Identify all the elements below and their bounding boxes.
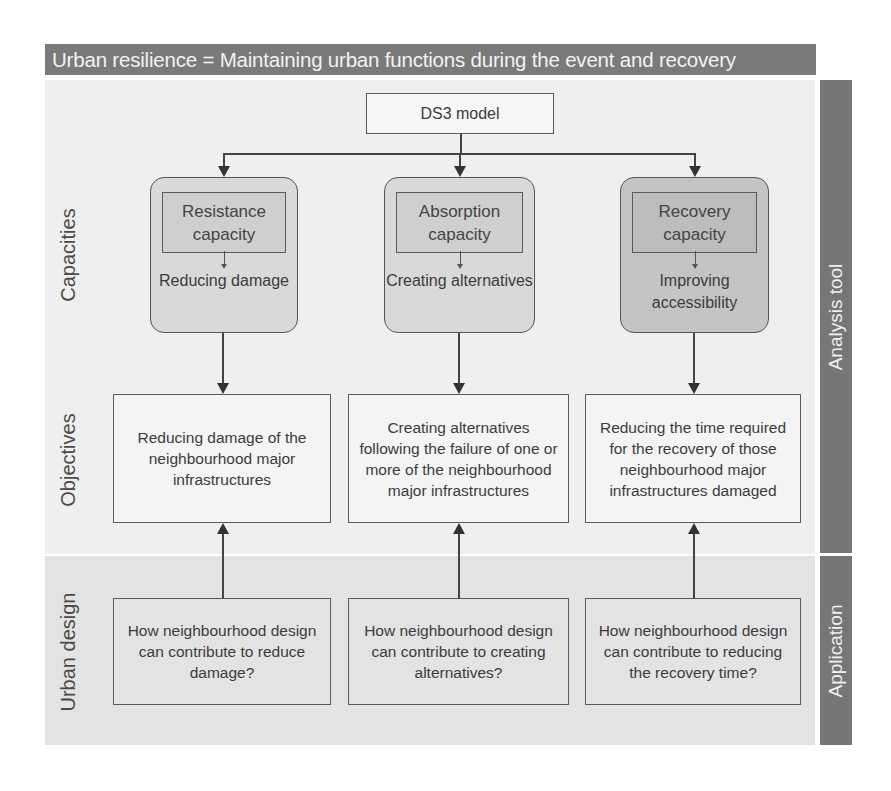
arrow-down-icon <box>689 166 701 177</box>
connector-line <box>458 533 460 598</box>
connector-line <box>458 333 460 383</box>
capacity-title: Recovery capacity <box>632 192 757 253</box>
urban-design-box-recovery: How neighbourhood design can contribute … <box>585 598 801 705</box>
arrow-down-icon <box>217 383 229 394</box>
arrow-up-icon <box>688 523 700 534</box>
capacity-title-text: Resistance capacity <box>163 200 285 246</box>
capacity-box-recovery: Recovery capacity Improving accessibilit… <box>620 177 769 333</box>
arrow-down-icon <box>224 251 225 265</box>
capacity-outcome: Reducing damage <box>151 270 297 292</box>
connector-line <box>222 533 224 598</box>
application-label: Application <box>825 604 847 697</box>
connector-line <box>694 153 696 167</box>
capacity-outcome: Creating alternatives <box>385 270 534 292</box>
application-bar: Application <box>820 556 852 745</box>
arrow-down-icon <box>218 166 230 177</box>
arrow-down-icon <box>454 166 466 177</box>
connector-line <box>223 153 225 167</box>
objective-text: Creating alternatives following the fail… <box>349 417 568 501</box>
objective-box-absorption: Creating alternatives following the fail… <box>348 394 569 523</box>
urban-design-box-resistance: How neighbourhood design can contribute … <box>113 598 331 705</box>
capacity-box-resistance: Resistance capacity Reducing damage <box>150 177 298 333</box>
capacity-title: Resistance capacity <box>162 192 286 253</box>
connector-line <box>693 333 695 383</box>
objective-text: Reducing the time required for the recov… <box>586 417 800 501</box>
analysis-tool-label: Analysis tool <box>825 263 847 370</box>
capacity-title: Absorption capacity <box>396 192 523 253</box>
capacity-outcome: Improving accessibility <box>621 270 768 314</box>
diagram-title-bar: Urban resilience = Maintaining urban fun… <box>45 44 816 75</box>
urban-design-text: How neighbourhood design can contribute … <box>349 620 568 683</box>
arrow-up-icon <box>453 523 465 534</box>
capacity-box-absorption: Absorption capacity Creating alternative… <box>384 177 535 333</box>
connector-line <box>460 134 462 153</box>
connector-line <box>693 533 695 598</box>
row-label-urban-design: Urban design <box>57 593 80 712</box>
capacity-title-text: Absorption capacity <box>397 200 522 246</box>
objective-box-resistance: Reducing damage of the neighbourhood maj… <box>113 394 331 523</box>
arrow-down-icon <box>695 251 696 265</box>
arrow-down-icon <box>460 251 461 265</box>
capacity-title-text: Recovery capacity <box>633 200 756 246</box>
ds3-model-label: DS3 model <box>420 103 499 124</box>
ds3-model-box: DS3 model <box>366 93 554 134</box>
objective-box-recovery: Reducing the time required for the recov… <box>585 394 801 523</box>
objective-text: Reducing damage of the neighbourhood maj… <box>114 427 330 490</box>
row-label-objectives: Objectives <box>57 413 80 506</box>
arrow-down-icon <box>688 383 700 394</box>
arrow-down-icon <box>453 383 465 394</box>
connector-line <box>222 333 224 383</box>
connector-line <box>459 153 461 167</box>
analysis-tool-bar: Analysis tool <box>820 80 852 553</box>
row-label-capacities: Capacities <box>57 208 80 301</box>
arrow-up-icon <box>217 523 229 534</box>
urban-design-text: How neighbourhood design can contribute … <box>586 620 800 683</box>
urban-design-box-absorption: How neighbourhood design can contribute … <box>348 598 569 705</box>
urban-design-text: How neighbourhood design can contribute … <box>114 620 330 683</box>
diagram-title: Urban resilience = Maintaining urban fun… <box>52 48 736 71</box>
